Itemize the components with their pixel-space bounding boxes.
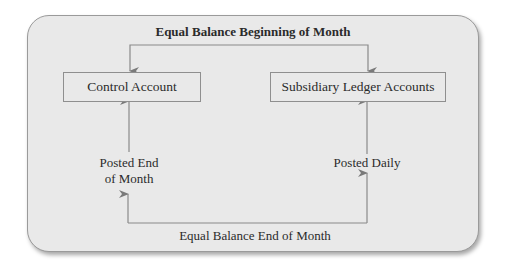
- subsidiary-ledger-label: Subsidiary Ledger Accounts: [282, 79, 435, 95]
- posted-end-line2: of Month: [89, 171, 169, 187]
- control-account-box: Control Account: [63, 72, 201, 102]
- subsidiary-ledger-box: Subsidiary Ledger Accounts: [270, 72, 446, 102]
- bottom-title: Equal Balance End of Month: [160, 228, 350, 244]
- posted-end-line1: Posted End: [89, 155, 169, 171]
- control-account-label: Control Account: [87, 79, 177, 95]
- posted-daily-label: Posted Daily: [320, 155, 414, 171]
- posted-end-of-month-label: Posted End of Month: [89, 155, 169, 187]
- top-title: Equal Balance Beginning of Month: [140, 24, 366, 40]
